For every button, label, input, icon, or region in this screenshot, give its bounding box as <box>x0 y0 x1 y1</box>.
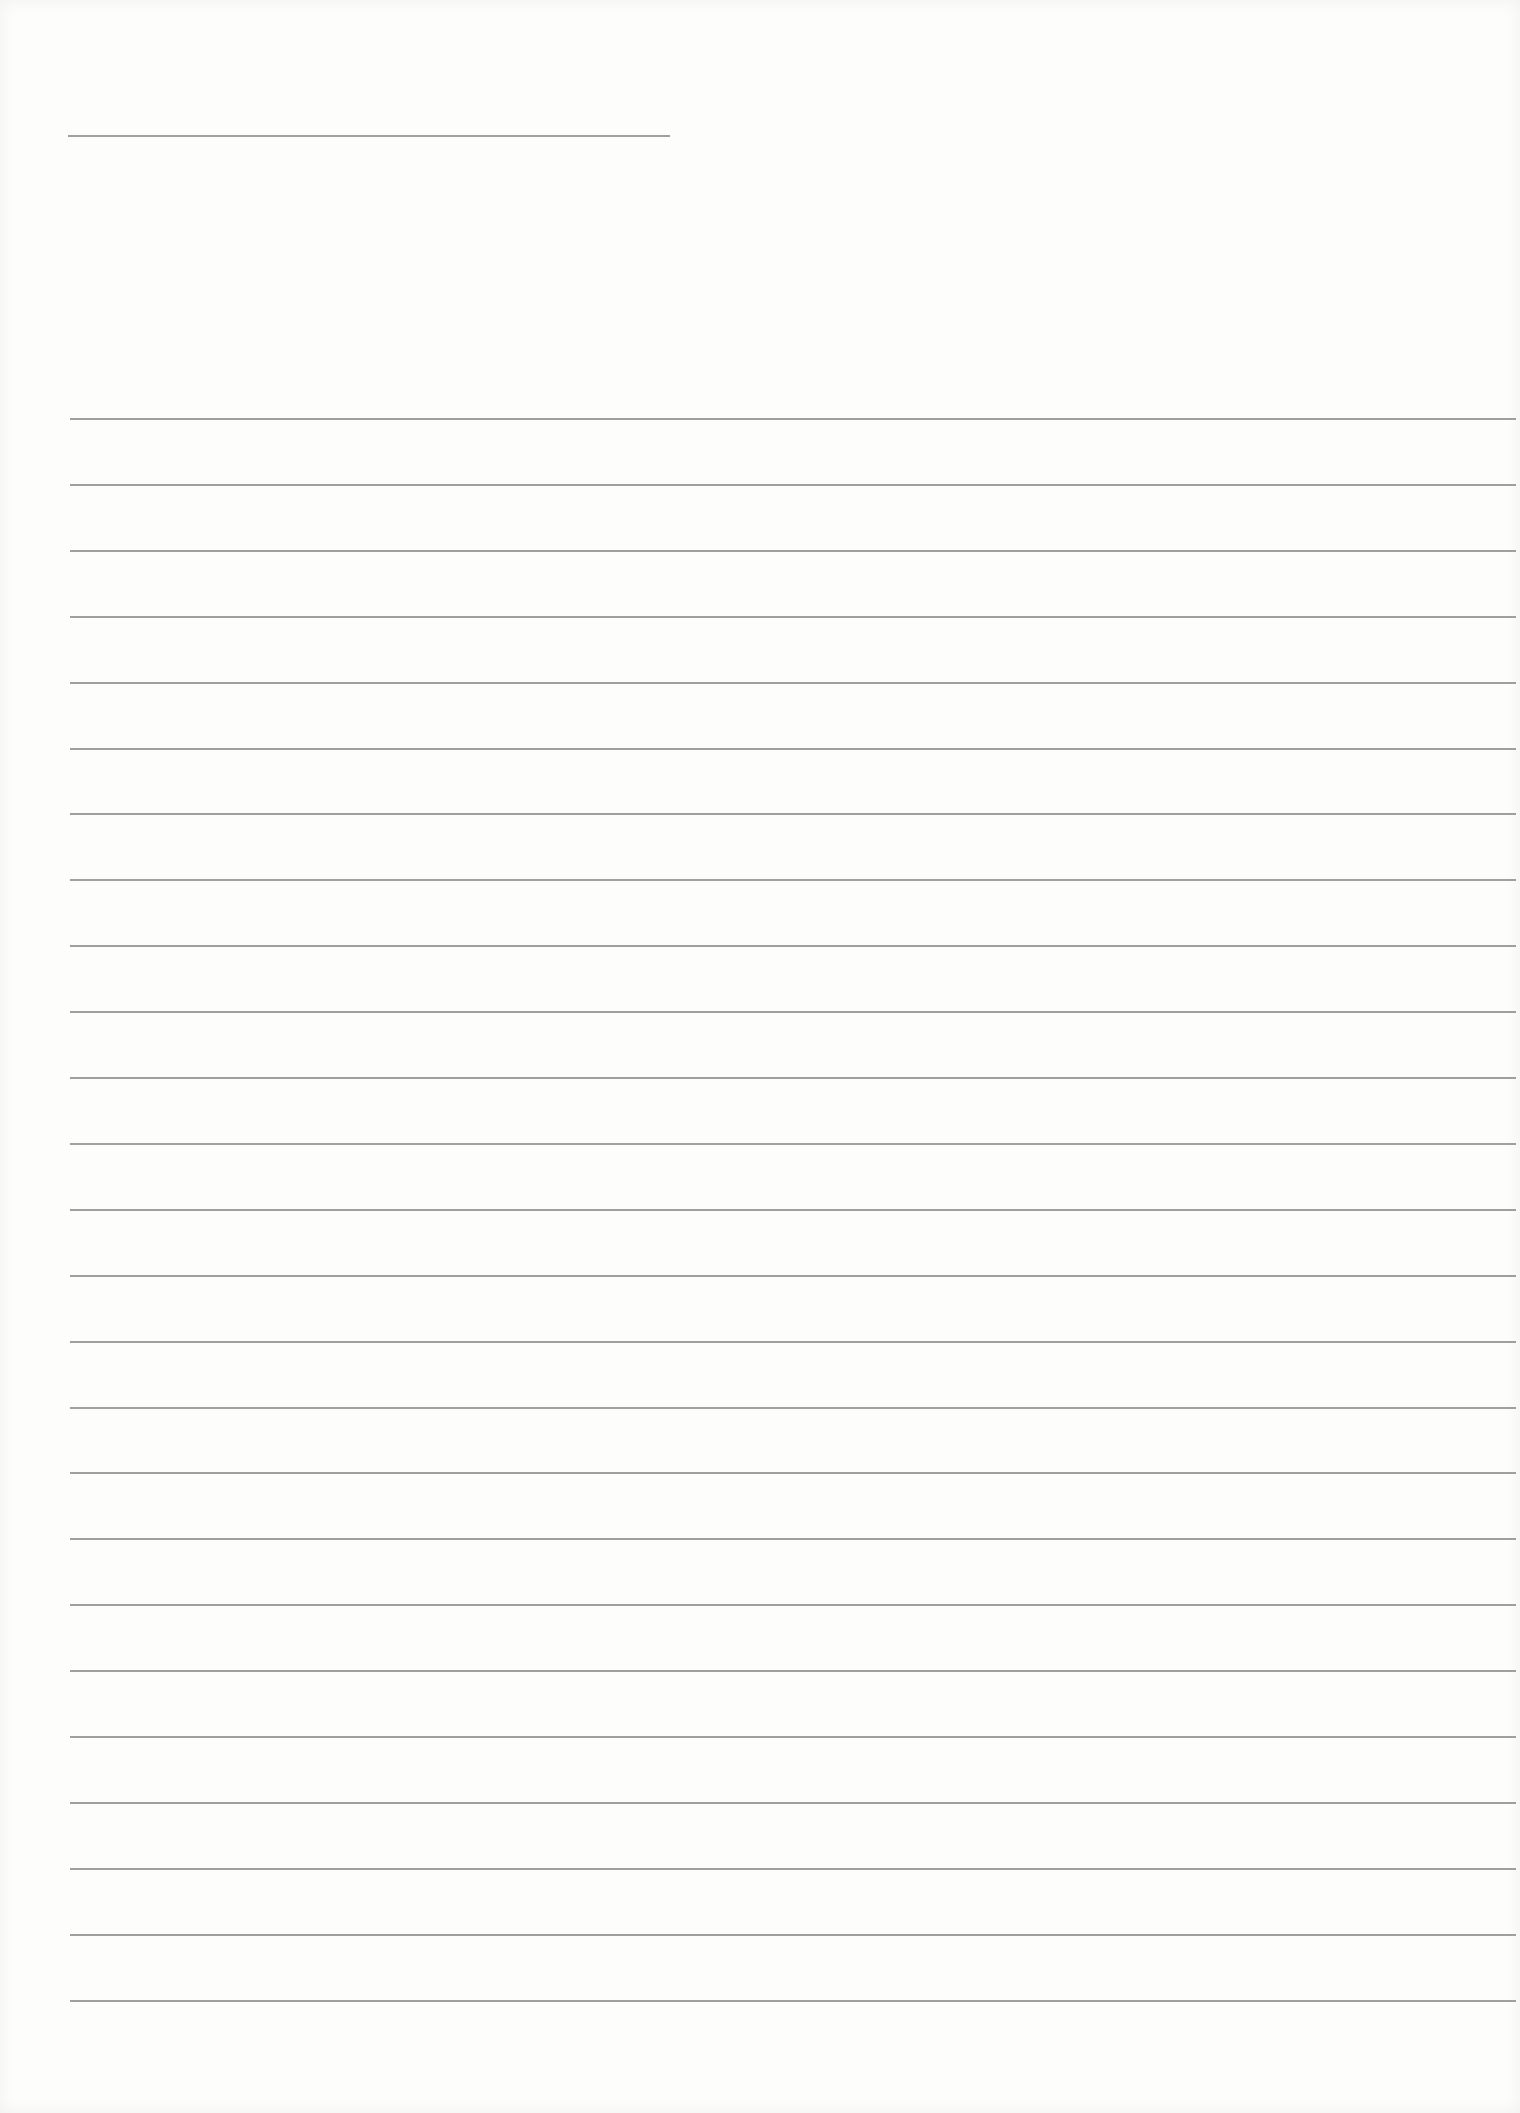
writing-line <box>70 1670 1516 1672</box>
writing-line <box>70 1275 1516 1277</box>
writing-line <box>70 484 1516 486</box>
writing-line <box>70 1472 1516 1474</box>
writing-line <box>70 418 1516 420</box>
writing-lines <box>0 0 1520 2113</box>
writing-line <box>70 1077 1516 1079</box>
writing-line <box>70 550 1516 552</box>
writing-line <box>70 748 1516 750</box>
writing-line <box>70 945 1516 947</box>
writing-line <box>70 1802 1516 1804</box>
writing-line <box>70 1538 1516 1540</box>
writing-line <box>70 813 1516 815</box>
writing-line <box>70 1604 1516 1606</box>
writing-line <box>70 879 1516 881</box>
writing-line <box>70 1868 1516 1870</box>
writing-line <box>70 1407 1516 1409</box>
writing-line <box>70 1736 1516 1738</box>
writing-line <box>70 1934 1516 1936</box>
writing-line <box>70 616 1516 618</box>
writing-line <box>70 1209 1516 1211</box>
writing-line <box>70 1341 1516 1343</box>
lined-paper-sheet <box>0 0 1520 2113</box>
writing-line <box>70 2000 1516 2002</box>
writing-line <box>70 682 1516 684</box>
writing-line <box>70 1143 1516 1145</box>
writing-line <box>70 1011 1516 1013</box>
